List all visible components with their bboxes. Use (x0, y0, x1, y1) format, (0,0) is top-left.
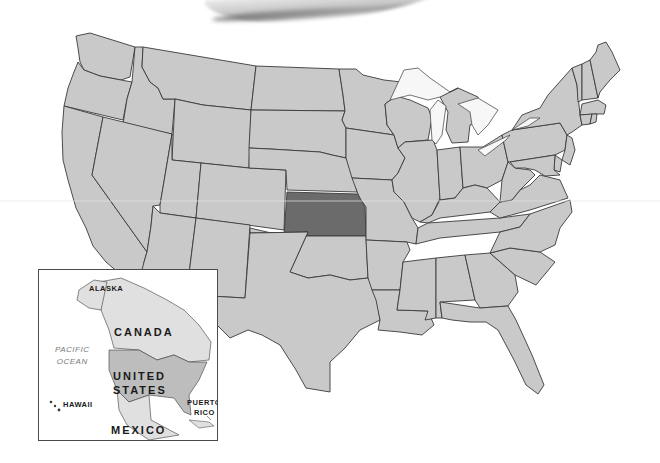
label-alaska: ALASKA (89, 284, 123, 293)
locator-inset-map: ALASKA CANADA PACIFIC OCEAN UNITED STATE… (38, 269, 218, 441)
state-wyoming[interactable] (172, 99, 251, 168)
state-massachusetts[interactable] (580, 100, 606, 115)
label-hawaii: HAWAII (63, 400, 93, 409)
label-united: UNITED (113, 370, 166, 382)
label-canada: CANADA (114, 326, 174, 338)
label-mexico: MEXICO (111, 424, 166, 436)
state-kansas[interactable] (284, 192, 366, 236)
lake-michigan (430, 100, 446, 144)
state-north-dakota[interactable] (251, 66, 345, 111)
label-states: STATES (113, 384, 167, 396)
state-florida[interactable] (440, 302, 544, 394)
state-indiana[interactable] (437, 147, 463, 200)
inset-caribbean (189, 420, 214, 428)
inset-hawaii-islands (50, 401, 53, 404)
inset-hawaii-islands-2 (54, 405, 56, 407)
label-rico: RICO (194, 408, 215, 417)
label-pacific-ocean: PACIFIC OCEAN (55, 344, 89, 368)
label-puerto: PUERTO (187, 398, 218, 407)
inset-hawaii-islands-3 (58, 409, 61, 412)
